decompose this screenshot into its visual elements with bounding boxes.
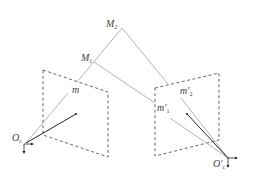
right-principal-point [186, 113, 188, 115]
ray-M1-to-m1p [94, 62, 155, 103]
ray-m2p-to-Oright [181, 98, 228, 158]
diagram-canvas: M2 M1 m m'1 m'2 Oc O'c [0, 0, 254, 181]
left-optical-axis [26, 114, 76, 143]
left-camera-axes-icon [23, 143, 35, 155]
label-M1: M1 [80, 52, 92, 64]
right-camera-axes-icon [227, 157, 239, 169]
label-m1-prime: m'1 [157, 102, 169, 114]
label-O-left: Oc [12, 132, 22, 144]
left-ray-to-m [26, 93, 68, 143]
label-M2: M2 [105, 18, 117, 30]
label-m2-prime: m'2 [180, 85, 192, 97]
label-O-right: O'c [213, 158, 225, 170]
right-optical-axis [187, 114, 228, 158]
ray-M2-to-m2p [122, 28, 168, 84]
left-principal-point [75, 113, 77, 115]
label-m: m [72, 84, 79, 95]
stereo-geometry-diagram: M2 M1 m m'1 m'2 Oc O'c [0, 0, 254, 181]
